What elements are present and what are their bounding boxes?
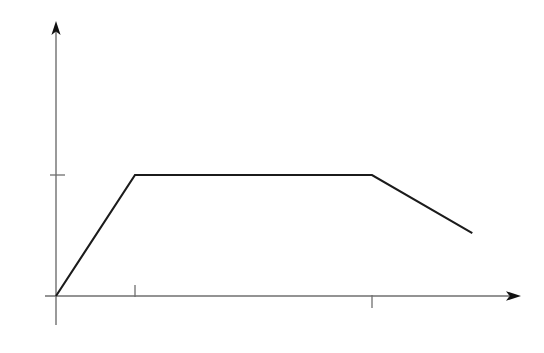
chart-background bbox=[0, 0, 544, 353]
chart-canvas bbox=[0, 0, 544, 353]
chart-figure: Line chart showing a trapezoid shape wit… bbox=[0, 0, 544, 353]
